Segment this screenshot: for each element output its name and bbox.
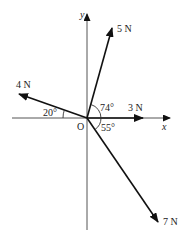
x-axis-label: x [161,121,167,132]
angle-arc-20 [63,110,64,118]
y-axis-label: y [79,9,85,20]
angle-55-label: 55° [101,122,115,133]
force-diagram: y x O 5 N 4 N 3 N 7 N 74° 20° 55° [0,0,189,240]
origin-label: O [77,121,84,132]
angle-20-label: 20° [43,107,57,118]
force-7n-label: 7 N [163,216,178,227]
force-3n-label: 3 N [128,102,143,113]
force-4n-label: 4 N [16,79,31,90]
force-5n-label: 5 N [117,23,132,34]
force-7n-arrow [87,118,158,222]
angle-74-label: 74° [100,102,114,113]
